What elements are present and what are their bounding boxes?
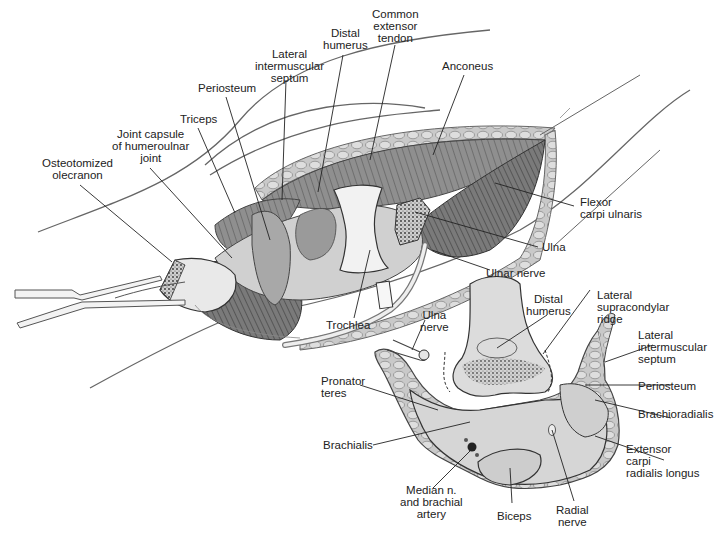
- label-pronator-teres: Pronator teres: [321, 375, 365, 399]
- label-biceps: Biceps: [497, 510, 532, 522]
- label-triceps: Triceps: [180, 113, 217, 125]
- label-extensor-carpi-radialis-longus: Extensor carpi radialis longus: [626, 443, 700, 479]
- label-lateral-intermuscular-septum-section: Lateral intermuscular septum: [638, 329, 707, 365]
- illustration-artwork: [0, 0, 719, 536]
- label-brachialis: Brachialis: [323, 439, 373, 451]
- brachial-artery-section: [468, 443, 477, 452]
- label-periosteum-top: Periosteum: [198, 82, 256, 94]
- label-radial-nerve: Radial nerve: [556, 504, 589, 528]
- label-distal-humerus-top: Distal humerus: [323, 27, 368, 51]
- label-ulna-nerve: Ulna nerve: [420, 309, 449, 333]
- label-brachioradialis: Brachioradialis: [638, 408, 713, 420]
- cross-section-artwork: [375, 277, 619, 489]
- label-lateral-supracondylar-ridge: Lateral supracondylar ridge: [597, 289, 669, 325]
- label-trochlea: Trochlea: [326, 319, 370, 331]
- label-flexor-carpi-ulnaris: Flexor carpi ulnaris: [580, 196, 642, 220]
- label-median-nerve-brachial-artery: Median n. and brachial artery: [400, 484, 463, 520]
- retractor-clamp: [15, 276, 185, 328]
- label-joint-capsule: Joint capsule of humeroulnar joint: [112, 128, 189, 164]
- label-ulnar-nerve: Ulnar nerve: [486, 267, 545, 279]
- vessel-loop: [376, 281, 392, 309]
- label-anconeus: Anconeus: [442, 60, 493, 72]
- label-osteotomized-olecranon: Osteotomized olecranon: [42, 157, 113, 181]
- anatomy-figure: Osteotomized olecranon Joint capsule of …: [0, 0, 719, 536]
- ulna-nerve-section: [419, 350, 429, 360]
- label-distal-humerus-section: Distal humerus: [526, 293, 571, 317]
- label-ulna: Ulna: [542, 241, 566, 253]
- label-periosteum-section: Periosteum: [638, 380, 696, 392]
- label-lateral-intermuscular-septum-top: Lateral intermuscular septum: [255, 48, 324, 84]
- label-common-extensor-tendon: Common extensor tendon: [372, 8, 419, 44]
